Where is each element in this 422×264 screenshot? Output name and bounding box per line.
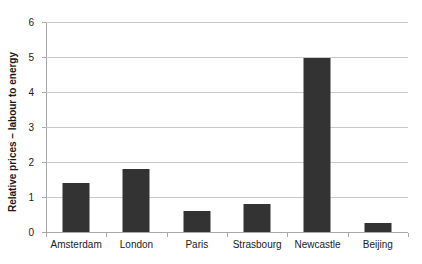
x-tick-mark xyxy=(167,233,168,237)
bar-slot xyxy=(167,22,227,232)
bar-slot xyxy=(227,22,287,232)
y-tick-label: 6 xyxy=(0,17,34,28)
x-tick-mark xyxy=(227,233,228,237)
bar-slot xyxy=(348,22,408,232)
y-tick-label: 3 xyxy=(0,122,34,133)
y-tick-label: 0 xyxy=(0,227,34,238)
plot-area xyxy=(46,22,408,232)
bar-slot xyxy=(287,22,347,232)
y-tick-label: 1 xyxy=(0,192,34,203)
y-tick-label: 4 xyxy=(0,87,34,98)
bar[interactable] xyxy=(123,169,150,232)
x-tick-label: Strasbourg xyxy=(233,239,282,250)
bar-chart-figure: Relative prices – labour to energy 01234… xyxy=(0,0,422,264)
bar[interactable] xyxy=(304,58,331,232)
bar-slot xyxy=(106,22,166,232)
y-axis-ticks: 0123456 xyxy=(0,0,42,264)
x-tick-mark xyxy=(46,233,47,237)
x-tick-label: London xyxy=(120,239,153,250)
y-tick-label: 2 xyxy=(0,157,34,168)
x-tick-label: Newcastle xyxy=(294,239,340,250)
bar[interactable] xyxy=(364,223,391,232)
bar[interactable] xyxy=(183,211,210,232)
x-tick-mark xyxy=(106,233,107,237)
bar[interactable] xyxy=(244,204,271,232)
x-tick-label: Paris xyxy=(185,239,208,250)
y-tick-label: 5 xyxy=(0,52,34,63)
x-tick-mark xyxy=(287,233,288,237)
x-tick-mark xyxy=(348,233,349,237)
x-tick-label: Beijing xyxy=(363,239,393,250)
bar[interactable] xyxy=(63,183,90,232)
x-tick-mark xyxy=(408,233,409,237)
bar-slot xyxy=(46,22,106,232)
x-tick-label: Amsterdam xyxy=(51,239,102,250)
x-axis-labels: AmsterdamLondonParisStrasbourgNewcastleB… xyxy=(46,239,408,259)
